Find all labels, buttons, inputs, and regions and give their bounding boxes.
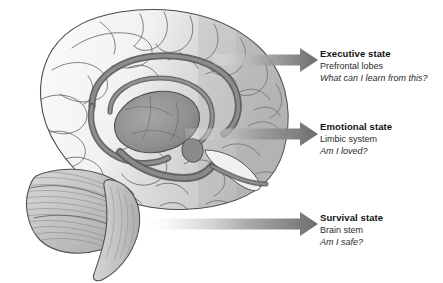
- callout-question: Am I loved?: [320, 145, 443, 157]
- callout-executive-state: Executive state Prefrontal lobes What ca…: [320, 48, 443, 84]
- callout-question: Am I safe?: [320, 236, 443, 248]
- brain-states-figure: Executive state Prefrontal lobes What ca…: [0, 0, 443, 283]
- callout-title: Survival state: [320, 212, 443, 224]
- callout-subtitle: Prefrontal lobes: [320, 60, 443, 72]
- callout-survival-state: Survival state Brain stem Am I safe?: [320, 212, 443, 248]
- callout-subtitle: Brain stem: [320, 224, 443, 236]
- callout-subtitle: Limbic system: [320, 133, 443, 145]
- callout-title: Executive state: [320, 48, 443, 60]
- callout-title: Emotional state: [320, 121, 443, 133]
- arrow-survival: [148, 212, 318, 236]
- callout-emotional-state: Emotional state Limbic system Am I loved…: [320, 121, 443, 157]
- callout-question: What can I learn from this?: [320, 72, 443, 84]
